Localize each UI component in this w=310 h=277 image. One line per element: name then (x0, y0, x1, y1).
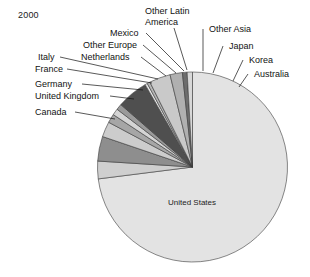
callout-label-mexico: Mexico (110, 28, 139, 38)
leader-line-germany (82, 84, 143, 90)
callout-label-japan: Japan (229, 41, 254, 51)
pie-slice-label: United States (168, 198, 216, 207)
callout-label-korea: Korea (249, 55, 273, 65)
leader-line-japan (213, 46, 223, 73)
leader-line-korea (233, 60, 243, 81)
callout-label-netherlands: Netherlands (81, 52, 130, 62)
pie-chart-figure: 2000 United States Other LatinAmericaMex… (0, 0, 310, 277)
callout-label-italy: Italy (38, 52, 55, 62)
pie-inside-labels: United States (168, 198, 216, 207)
callout-label-germany: Germany (35, 79, 73, 89)
pie-chart-canvas: United States Other LatinAmericaMexicoOt… (0, 0, 310, 277)
leader-line-france (67, 69, 152, 83)
leader-line-netherlands (141, 57, 166, 76)
leader-line-other-latin-america (174, 28, 187, 70)
leader-line-other-europe (143, 45, 176, 73)
leader-line-canada (75, 112, 115, 119)
callout-label-canada: Canada (35, 107, 67, 117)
callout-label-other-europe: Other Europe (83, 40, 137, 50)
pie-slices (98, 72, 288, 262)
callout-label-other-asia: Other Asia (209, 24, 251, 34)
callout-label-united-kingdom: United Kingdom (35, 91, 99, 101)
callout-label-other-latin-america: Other LatinAmerica (145, 6, 190, 27)
leader-line-australia (239, 74, 248, 87)
callout-label-france: France (35, 64, 63, 74)
callout-label-australia: Australia (254, 69, 289, 79)
